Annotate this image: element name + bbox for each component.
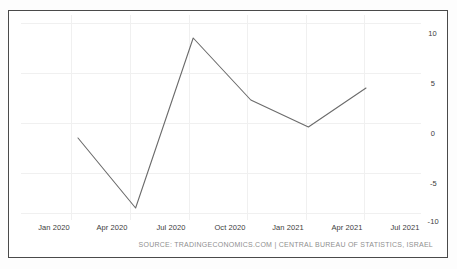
gridline-vertical (130, 15, 131, 220)
chart-frame: 10 5 0 -5 -10 Jan 2020 Apr 2020 Jul 2020… (8, 10, 448, 258)
x-axis-tick-label: Jan 2021 (272, 223, 304, 232)
x-axis-tick-label: Apr 2020 (96, 223, 127, 232)
x-axis-tick-label: Oct 2020 (214, 223, 245, 232)
gridline-vertical (71, 15, 72, 220)
x-axis-tick-label: Jul 2020 (156, 223, 185, 232)
chart-widget: 10 5 0 -5 -10 Jan 2020 Apr 2020 Jul 2020… (0, 0, 457, 269)
gridline-vertical (189, 15, 190, 220)
x-axis-tick-label: Apr 2021 (331, 223, 362, 232)
gridline-horizontal (21, 73, 421, 74)
y-axis-tick-label: 5 (431, 79, 435, 88)
gridline-horizontal (21, 213, 421, 214)
y-axis-tick-label: 10 (428, 29, 437, 38)
gridline-horizontal (21, 123, 421, 124)
x-axis-tick-label: Jan 2020 (38, 223, 70, 232)
gridline-vertical (306, 15, 307, 220)
grid-lines (21, 15, 421, 220)
gridline-horizontal (21, 23, 421, 24)
y-axis-tick-label: 0 (431, 129, 435, 138)
x-axis-tick-label: Jul 2021 (390, 223, 419, 232)
y-axis-tick-label: -10 (428, 217, 439, 226)
gridline-vertical (247, 15, 248, 220)
plot-area[interactable] (21, 15, 421, 220)
source-attribution: SOURCE: TRADINGECONOMICS.COM | CENTRAL B… (139, 241, 433, 248)
gridline-vertical (364, 15, 365, 220)
y-axis-tick-label: -5 (430, 179, 437, 188)
gridline-horizontal (21, 173, 421, 174)
